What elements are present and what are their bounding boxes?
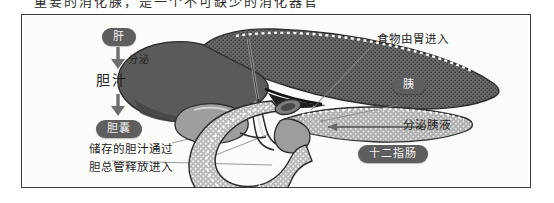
- caption-text: 重要的消化腺，是一个不可缺少的消化器官: [34, 0, 319, 10]
- label-food-from-stomach: 食物由胃进入: [377, 32, 449, 47]
- arrow-bile-to-gallbladder: [106, 93, 136, 119]
- figure-stage: 重要的消化腺，是一个不可缺少的消化器官: [0, 0, 554, 203]
- label-stored-bile-line2: 胆总管释放进入: [89, 160, 173, 175]
- label-pancreas[interactable]: 胰: [392, 76, 426, 94]
- label-stored-bile-line1: 储存的胆汁通过: [89, 142, 173, 157]
- label-duodenum[interactable]: 十二指肠: [358, 145, 428, 163]
- label-gallbladder[interactable]: 胆囊: [96, 120, 142, 138]
- caption-strip: 重要的消化腺，是一个不可缺少的消化器官: [0, 0, 554, 10]
- label-liver[interactable]: 肝: [102, 28, 136, 46]
- label-pancreatic-juice: 分泌胰液: [403, 118, 451, 133]
- label-bile: 胆汁: [96, 73, 128, 88]
- label-secretes: 分泌: [128, 52, 150, 67]
- anatomy-figure: 肝 分泌 胆汁 胆囊 储存的胆汁通过 胆总管释放进入 食物由胃进入 胰 分泌胰液…: [21, 14, 531, 188]
